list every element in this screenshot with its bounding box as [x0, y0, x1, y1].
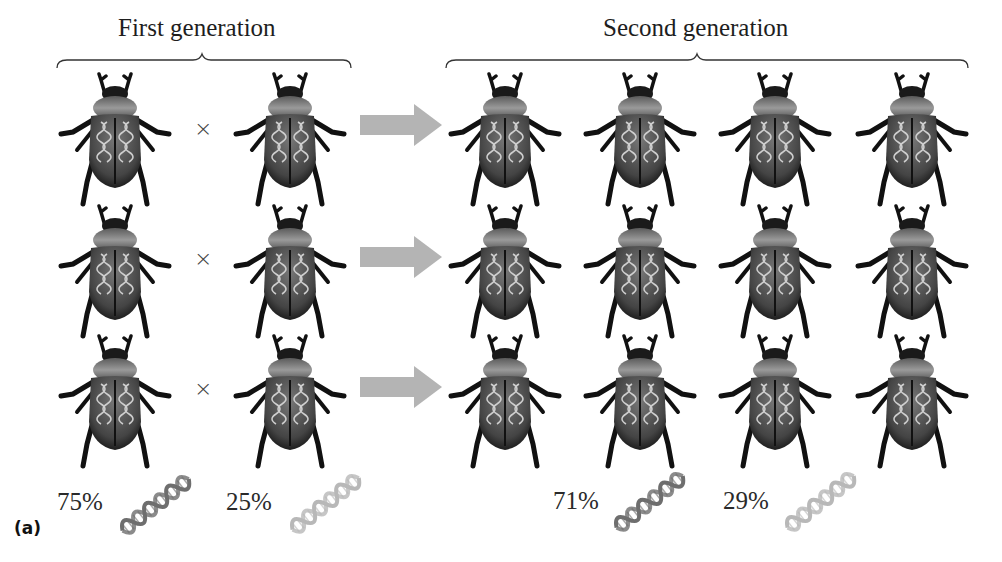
- dark-allele-frequency-gen1: 75%: [57, 488, 103, 516]
- beetle-icon: [717, 72, 833, 208]
- dark-allele-frequency-gen2: 71%: [553, 487, 599, 515]
- beetle-icon: [854, 334, 970, 470]
- light-allele-frequency-gen1: 25%: [226, 488, 272, 516]
- dark-dna-icon: [113, 463, 203, 543]
- dark-dna-icon: [607, 460, 697, 540]
- beetle-icon: [232, 204, 348, 340]
- arrow-icon: [360, 366, 442, 408]
- beetle-icon: [57, 204, 173, 340]
- beetle-icon: [582, 334, 698, 470]
- light-dna-icon: [283, 462, 373, 542]
- second-generation-brace: [444, 52, 974, 70]
- beetle-icon: [57, 334, 173, 470]
- beetle-icon: [447, 72, 563, 208]
- beetle-icon: [854, 72, 970, 208]
- beetle-icon: [582, 204, 698, 340]
- beetle-icon: [232, 334, 348, 470]
- light-dna-icon: [778, 460, 868, 540]
- beetle-icon: [232, 72, 348, 208]
- second-generation-title: Second generation: [603, 14, 788, 42]
- panel-label: (a): [14, 518, 41, 538]
- cross-icon: ×: [194, 246, 212, 271]
- beetle-icon: [447, 204, 563, 340]
- arrow-icon: [360, 104, 442, 146]
- cross-icon: ×: [194, 376, 212, 401]
- beetle-icon: [717, 334, 833, 470]
- beetle-icon: [582, 72, 698, 208]
- beetle-icon: [717, 204, 833, 340]
- first-generation-brace: [55, 52, 355, 70]
- light-allele-frequency-gen2: 29%: [723, 487, 769, 515]
- arrow-icon: [360, 236, 442, 278]
- cross-icon: ×: [194, 116, 212, 141]
- beetle-icon: [447, 334, 563, 470]
- beetle-icon: [57, 72, 173, 208]
- first-generation-title: First generation: [118, 14, 276, 42]
- beetle-icon: [854, 204, 970, 340]
